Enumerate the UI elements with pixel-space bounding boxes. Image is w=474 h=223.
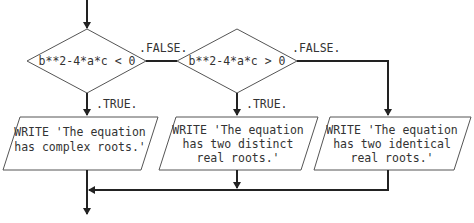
flowchart-canvas: b**2-4*a*c < 0 .FALSE. b**2-4*a*c > 0 .F… — [0, 0, 474, 223]
decision-2-condition: b**2-4*a*c > 0 — [189, 54, 286, 68]
output-2-line-1: WRITE 'The equation — [172, 123, 304, 137]
decision-2: b**2-4*a*c > 0 — [177, 29, 297, 93]
d2-true-label: .TRUE. — [246, 97, 288, 111]
d1-true-label: .TRUE. — [96, 97, 138, 111]
output-1-line-2: has complex roots.' — [14, 140, 146, 154]
d2-false-connector — [297, 61, 388, 115]
output-3-line-2: has two identical — [333, 137, 451, 151]
output-2-line-3: real roots.' — [196, 151, 279, 165]
output-2: WRITE 'The equation has two distinct rea… — [159, 117, 318, 170]
decision-1-condition: b**2-4*a*c < 0 — [39, 54, 136, 68]
d2-false-label: .FALSE. — [292, 41, 340, 55]
output-3: WRITE 'The equation has two identical re… — [314, 117, 471, 170]
output-1: WRITE 'The equation has complex roots.' — [3, 117, 158, 170]
merge-connector — [89, 170, 388, 190]
decision-1: b**2-4*a*c < 0 — [27, 29, 146, 93]
output-1-line-1: WRITE 'The equation — [14, 125, 146, 139]
d1-false-label: .FALSE. — [139, 41, 187, 55]
output-2-line-2: has two distinct — [183, 137, 294, 151]
output-3-line-1: WRITE 'The equation — [326, 123, 458, 137]
output-3-line-3: real roots.' — [350, 151, 433, 165]
